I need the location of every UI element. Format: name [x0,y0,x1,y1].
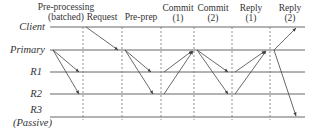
node-label-r1: R1 [30,66,42,77]
arrow-request [86,27,118,50]
phase-dividers [83,27,270,120]
phase-title: Pre-prep [121,12,161,22]
phase-label-reply-2: Reply (2) [272,3,308,23]
phase-title: Request [82,12,122,22]
arrow-reply2-client [274,28,296,50]
node-label-r3-passive: (Passive) [13,117,52,128]
phase-title: Commit [160,3,196,13]
message-arrows [53,27,296,116]
phase-subtitle: (1) [160,13,196,23]
phase-title: Pre-processing [36,2,96,12]
node-label-client: Client [19,21,45,32]
phase-label-preprep: Pre-prep [121,12,161,22]
arrow-reply1-r2 [235,51,266,94]
node-label-r3: R3 [30,104,42,115]
phase-label-commit-1: Commit (1) [160,3,196,23]
phase-title: Reply [233,3,269,13]
arrow-reply1-r1 [235,51,265,72]
node-label-r2: R2 [30,88,42,99]
phase-subtitle: (1) [233,13,269,23]
pbft-message-flow-diagram: Client Primary R1 R2 R3 (Passive) Pre-pr… [0,0,318,136]
phase-label-reply-1: Reply (1) [233,3,269,23]
phase-title: Reply [272,3,308,13]
timelines [50,27,305,117]
phase-subtitle: (2) [195,13,231,23]
phase-label-request: Request [82,12,122,22]
arrow-preprocess-r1 [53,50,79,72]
arrow-commit1-r2 [164,51,193,94]
arrow-preprep-r1 [125,50,151,72]
arrow-commit1-r1 [164,51,192,72]
arrow-commit2-r1 [197,50,228,72]
phase-subtitle: (2) [272,13,308,23]
node-label-primary: Primary [10,44,45,55]
phase-title: Commit [195,3,231,13]
phase-label-commit-2: Commit (2) [195,3,231,23]
arrow-reply2-r3 [274,50,296,116]
